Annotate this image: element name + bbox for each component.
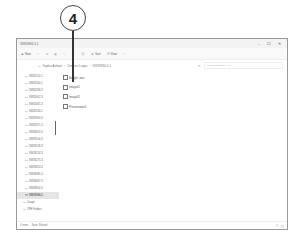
sort-button[interactable]: ⇅ Sort — [91, 52, 101, 56]
file-list: Bought .wav Image01 Image02 Presentation… — [59, 71, 287, 223]
nav-item[interactable]: ▭SW32900-3 — [17, 115, 59, 122]
nav-item[interactable]: ▭SW32298-3 — [17, 87, 59, 94]
image-icon — [63, 85, 68, 90]
file-item[interactable]: Image02 — [59, 92, 287, 102]
navigation-pane: ▭SW32210-1 ▭SW32260-1 ▭SW32298-3 ▭SW3240… — [17, 71, 59, 223]
nav-item-selected[interactable]: ▭SW33994-3 — [17, 192, 59, 199]
delete-icon[interactable]: 🗑 — [81, 52, 85, 56]
folder-icon: ▭ — [25, 103, 28, 106]
nav-scrollbar[interactable] — [55, 121, 56, 135]
folder-icon: ▭ — [25, 152, 28, 155]
folder-icon: ▭ — [25, 180, 28, 183]
nav-item[interactable]: ▭CPE Folders — [17, 206, 59, 213]
plus-icon: ⊕ — [21, 52, 24, 56]
paste-icon[interactable]: ▣ — [54, 52, 57, 56]
file-name: Presentation1 — [69, 105, 86, 109]
folder-icon: ▭ — [25, 110, 28, 113]
nav-item[interactable]: ▭SW33050-3 — [17, 129, 59, 136]
folder-icon: ▭ — [25, 82, 28, 85]
folder-icon: ▭ — [25, 138, 28, 141]
rename-icon[interactable]: ✎ — [63, 52, 66, 56]
share-state: State: Shared — [31, 224, 47, 227]
breadcrumb-item[interactable]: Contract Logos — [67, 64, 87, 68]
breadcrumb-item[interactable]: Sophia Ashwin — [43, 64, 63, 68]
more-options-button[interactable]: ··· — [123, 52, 126, 56]
nav-item[interactable]: ▭SW33485-3 — [17, 171, 59, 178]
command-bar: ⊕ New ✂ ⧉ ▣ ✎ ↗ 🗑 ⇅ Sort ☰ View ··· — [17, 48, 287, 60]
folder-icon: ▭ — [25, 75, 28, 78]
nav-item[interactable]: ▭SW32210-1 — [17, 73, 59, 80]
nav-item[interactable]: ▭SW33353-3 — [17, 164, 59, 171]
presentation-icon — [63, 104, 68, 109]
forward-button[interactable]: → — [27, 64, 30, 68]
up-button[interactable]: ↑ — [33, 64, 35, 68]
cut-icon[interactable]: ✂ — [37, 52, 40, 56]
details-view-icon[interactable]: ☷ — [276, 224, 279, 228]
file-explorer-window: SW33994-3-1 – ☐ ✕ ⊕ New ✂ ⧉ ▣ ✎ ↗ 🗑 ⇅ So… — [16, 38, 288, 230]
file-item[interactable]: Image01 — [59, 83, 287, 93]
status-bar: 4 items State: Shared ☷ ▢ — [17, 221, 287, 229]
close-button[interactable]: ✕ — [278, 41, 281, 46]
callout-pointer-line — [72, 31, 74, 82]
view-icon: ☰ — [107, 52, 110, 56]
image-icon — [63, 94, 68, 99]
folder-icon: ▭ — [25, 96, 28, 99]
nav-item[interactable]: ▭SW32402-3 — [17, 94, 59, 101]
file-name: Image01 — [69, 85, 80, 89]
nav-item[interactable]: ▭SW32481-3 — [17, 101, 59, 108]
new-button[interactable]: ⊕ New — [21, 52, 31, 56]
title-bar: SW33994-3-1 – ☐ ✕ — [17, 39, 287, 48]
nav-item[interactable]: ▭SW32971-3 — [17, 122, 59, 129]
nav-item[interactable]: ▭SW33497-3 — [17, 178, 59, 185]
tiles-view-icon[interactable]: ▢ — [281, 224, 284, 228]
nav-item[interactable]: ▭Coupé — [17, 199, 59, 206]
file-item[interactable]: Bought .wav — [59, 73, 287, 83]
step-callout: 4 — [60, 5, 86, 31]
folder-icon: ▭ — [25, 145, 28, 148]
breadcrumb-item[interactable]: SW33994-3-1 — [93, 64, 112, 68]
search-input[interactable]: Search SW33994-3-1 — [204, 62, 283, 69]
nav-item[interactable]: ▭SW32530-1 — [17, 108, 59, 115]
copy-icon[interactable]: ⧉ — [46, 52, 48, 56]
folder-icon: ▭ — [25, 187, 28, 190]
folder-icon: ▭ — [25, 173, 28, 176]
folder-icon: ▭ — [38, 64, 41, 68]
file-item[interactable]: Presentation1 — [59, 102, 287, 112]
folder-icon: ▭ — [25, 159, 28, 162]
folder-icon: ▭ — [25, 131, 28, 134]
document-icon — [63, 75, 68, 80]
folder-icon: ▭ — [23, 208, 26, 211]
maximize-button[interactable]: ☐ — [267, 41, 271, 46]
view-button[interactable]: ☰ View — [107, 52, 117, 56]
refresh-button[interactable]: ⟳ — [198, 64, 201, 68]
folder-icon: ▭ — [25, 166, 28, 169]
item-count: 4 items — [20, 224, 28, 227]
nav-item[interactable]: ▭SW33138-3 — [17, 143, 59, 150]
folder-icon: ▭ — [25, 89, 28, 92]
folder-icon: ▭ — [23, 201, 26, 204]
callout-number: 4 — [69, 10, 77, 27]
address-bar-row: ← → ↑ ▭ Sophia Ashwin › Contract Logos ›… — [17, 60, 287, 71]
sort-icon: ⇅ — [91, 52, 94, 56]
nav-item[interactable]: ▭SW33106-3 — [17, 136, 59, 143]
window-title: SW33994-3-1 — [20, 42, 258, 46]
file-name: Image02 — [69, 95, 80, 99]
nav-item[interactable]: ▭SW33910-3 — [17, 185, 59, 192]
nav-item[interactable]: ▭SW32260-1 — [17, 80, 59, 87]
folder-icon: ▭ — [25, 117, 28, 120]
folder-icon: ▭ — [25, 194, 28, 197]
minimize-button[interactable]: – — [258, 41, 260, 46]
nav-item[interactable]: ▭SW33216-3 — [17, 150, 59, 157]
folder-icon: ▭ — [25, 124, 28, 127]
nav-item[interactable]: ▭SW33275-3 — [17, 157, 59, 164]
back-button[interactable]: ← — [21, 64, 24, 68]
breadcrumb[interactable]: ▭ Sophia Ashwin › Contract Logos › SW339… — [38, 64, 196, 68]
main-content: ▭SW32210-1 ▭SW32260-1 ▭SW32298-3 ▭SW3240… — [17, 71, 287, 223]
